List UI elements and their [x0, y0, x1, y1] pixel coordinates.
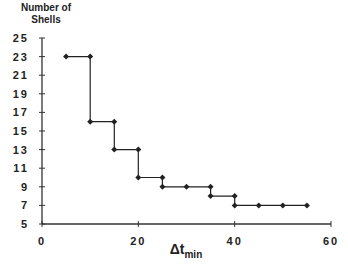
data-point-marker [208, 193, 214, 199]
series-line [66, 57, 307, 206]
data-point-marker [87, 119, 93, 125]
data-point-marker [304, 202, 310, 208]
x-tick-label: 20 [130, 235, 146, 247]
y-tick-label: 15 [13, 125, 29, 137]
data-point-marker [280, 202, 286, 208]
data-series [63, 54, 310, 209]
x-axis-title: Δtmin [170, 241, 203, 260]
y-tick-label: 11 [13, 162, 29, 174]
x-axis-title-main: Δt [170, 241, 185, 257]
data-point-marker [87, 54, 93, 60]
y-tick-label: 25 [13, 32, 29, 44]
data-point-marker [135, 175, 141, 181]
y-axis-title-line1: Number of [21, 2, 72, 13]
y-tick-label: 21 [13, 69, 29, 81]
data-point-marker [63, 54, 69, 60]
data-point-marker [232, 202, 238, 208]
data-point-marker [111, 147, 117, 153]
x-tick-label: 60 [323, 235, 339, 247]
y-tick-label: 17 [13, 106, 29, 118]
x-tick-label: 40 [227, 235, 243, 247]
y-tick-label: 9 [21, 181, 29, 193]
y-tick-label: 23 [13, 51, 29, 63]
data-point-marker [135, 147, 141, 153]
axes: 57911131517192123250204060 [13, 32, 339, 247]
x-axis-title-sub: min [184, 249, 202, 260]
axis-labels: Number of Shells Δtmin [21, 2, 202, 260]
data-point-marker [159, 184, 165, 190]
y-axis-title-line2: Shells [31, 14, 61, 25]
y-tick-label: 13 [13, 144, 29, 156]
data-point-marker [208, 184, 214, 190]
step-chart: 57911131517192123250204060 Number of She… [0, 0, 348, 267]
data-point-marker [159, 175, 165, 181]
data-point-marker [111, 119, 117, 125]
data-point-marker [256, 202, 262, 208]
data-point-marker [232, 193, 238, 199]
x-tick-label: 0 [38, 235, 46, 247]
data-point-marker [184, 184, 190, 190]
y-tick-label: 19 [13, 88, 29, 100]
y-tick-label: 7 [21, 199, 29, 211]
y-tick-label: 5 [21, 218, 29, 230]
